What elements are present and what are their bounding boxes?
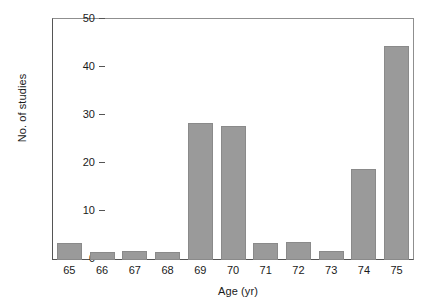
bars-layer	[53, 19, 413, 260]
bar	[90, 252, 115, 260]
x-tick-label: 75	[377, 263, 417, 277]
bar	[253, 243, 278, 260]
bar	[57, 243, 82, 260]
bar-chart: No. of studies 01020304050 6566676869707…	[0, 0, 430, 306]
bar	[351, 169, 376, 260]
bar	[384, 46, 409, 260]
bar	[221, 126, 246, 260]
bar	[188, 123, 213, 260]
x-axis-title: Age (yr)	[62, 285, 414, 297]
bar	[122, 251, 147, 260]
y-axis-title: No. of studies	[16, 38, 28, 178]
bar	[155, 252, 180, 260]
bar	[286, 242, 311, 260]
bar	[319, 251, 344, 260]
